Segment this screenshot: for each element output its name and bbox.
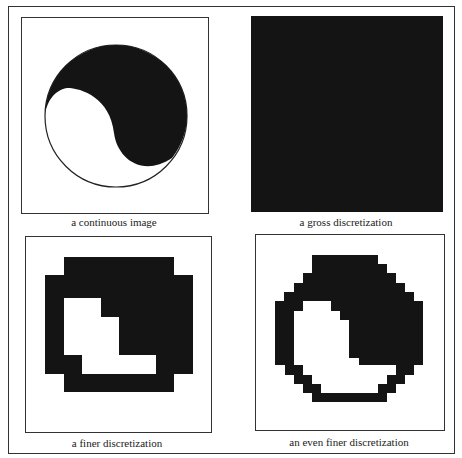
even-finer-grid <box>256 235 444 430</box>
caption-finer: a finer discretization <box>17 437 217 449</box>
panel-finer-discretization <box>25 236 212 433</box>
caption-even-finer: an even finer discretization <box>249 436 449 448</box>
caption-gross: a gross discretization <box>246 216 446 228</box>
caption-continuous: a continuous image <box>14 216 214 228</box>
panel-even-finer-discretization <box>255 234 445 431</box>
yin-yang-shape <box>22 18 208 213</box>
panel-gross-discretization <box>251 16 443 212</box>
finer-grid <box>26 237 211 432</box>
panel-continuous-image <box>21 17 209 214</box>
